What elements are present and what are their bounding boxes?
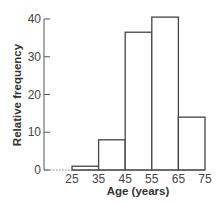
- y-ticks: 010203040: [28, 12, 50, 177]
- histogram-bars: [72, 17, 205, 170]
- histogram-bar-35-45: [99, 140, 126, 170]
- x-ticks: 253545556575: [65, 172, 212, 186]
- histogram-bar-45-55: [125, 32, 152, 170]
- x-tick-label: 45: [119, 172, 133, 186]
- x-tick-label: 35: [92, 172, 106, 186]
- x-tick-label: 25: [65, 172, 79, 186]
- y-tick-label: 10: [28, 125, 42, 139]
- y-axis-title: Relative frequency: [11, 43, 23, 146]
- histogram-bar-65-75: [178, 117, 205, 170]
- y-tick-label: 20: [28, 88, 42, 102]
- y-tick-label: 0: [34, 163, 41, 177]
- x-tick-label: 65: [172, 172, 186, 186]
- y-tick-label: 30: [28, 50, 42, 64]
- histogram-chart: 010203040 253545556575 Age (years) Relat…: [0, 0, 218, 203]
- x-tick-label: 75: [198, 172, 212, 186]
- y-tick-label: 40: [28, 12, 42, 26]
- x-tick-label: 55: [145, 172, 159, 186]
- x-axis-title: Age (years): [107, 185, 170, 197]
- histogram-bar-25-35: [72, 166, 99, 170]
- histogram-bar-55-65: [152, 17, 179, 170]
